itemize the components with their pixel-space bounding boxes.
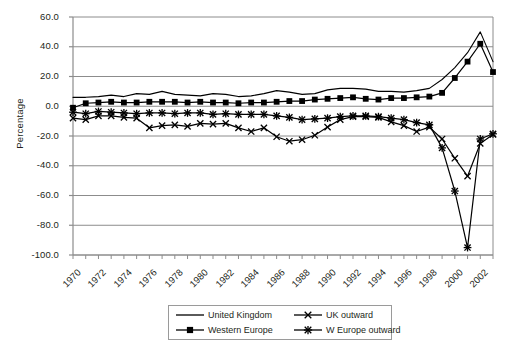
data-marker-asterisk [285, 114, 293, 122]
data-marker-x [324, 124, 330, 130]
grid-lines [73, 47, 493, 255]
data-marker-square [223, 100, 229, 106]
data-marker-asterisk [464, 244, 472, 252]
data-marker-asterisk [222, 110, 230, 118]
series-line [73, 111, 493, 247]
legend-label: UK outward [326, 310, 373, 320]
series-w-europe-outward [69, 108, 497, 252]
data-marker-square [261, 100, 267, 106]
data-marker-square [401, 95, 407, 101]
legend-marker-x [293, 309, 323, 321]
data-marker-asterisk [247, 111, 255, 119]
data-marker-square [465, 59, 471, 65]
data-marker-asterisk [158, 109, 166, 117]
data-marker-x [274, 134, 280, 140]
data-marker-square [197, 99, 203, 105]
data-marker-square [388, 95, 394, 101]
data-marker-square [299, 98, 305, 104]
data-marker-asterisk [145, 109, 153, 117]
data-marker-square [121, 100, 127, 106]
data-marker-square [248, 100, 254, 106]
data-marker-square [312, 97, 318, 103]
data-marker-square [236, 100, 242, 106]
legend-item: W Europe outward [293, 324, 399, 336]
legend-label: United Kingdom [208, 310, 272, 320]
data-marker-square [350, 94, 356, 100]
data-marker-asterisk [438, 144, 446, 152]
data-marker-asterisk [400, 116, 408, 124]
data-marker-x [452, 155, 458, 161]
series-line [73, 32, 493, 97]
data-marker-x [312, 132, 318, 138]
data-marker-asterisk [425, 121, 433, 129]
data-marker-square [96, 100, 102, 106]
data-marker-asterisk [349, 112, 357, 120]
data-marker-asterisk [171, 110, 179, 118]
data-marker-asterisk [235, 111, 243, 119]
data-marker-square [325, 96, 331, 102]
data-marker-square [477, 41, 483, 47]
legend-item: Western Europe [175, 324, 293, 336]
data-marker-x [414, 128, 420, 134]
data-marker-square [159, 99, 165, 105]
data-marker-asterisk [273, 112, 281, 120]
data-marker-square [108, 99, 114, 105]
legend-item: United Kingdom [175, 309, 293, 321]
legend-marker-none [175, 309, 205, 321]
legend-marker-asterisk [293, 324, 323, 336]
data-marker-asterisk [120, 109, 128, 117]
plot-area [0, 0, 516, 355]
data-marker-square [134, 100, 140, 106]
legend-item: UK outward [293, 309, 399, 321]
data-marker-square [274, 99, 280, 105]
data-marker-x [248, 128, 254, 134]
data-marker-square [83, 100, 89, 106]
data-marker-x [439, 136, 445, 142]
data-marker-asterisk [82, 110, 90, 118]
data-marker-square [426, 94, 432, 100]
data-marker-asterisk [489, 130, 497, 138]
data-marker-square [286, 98, 292, 104]
data-marker-square [490, 69, 496, 75]
data-marker-x [261, 125, 267, 131]
data-marker-asterisk [133, 110, 141, 118]
legend-label: Western Europe [208, 325, 273, 335]
data-marker-asterisk [260, 111, 268, 119]
series-united-kingdom [73, 32, 493, 97]
data-marker-asterisk [311, 115, 319, 123]
data-marker-asterisk [387, 114, 395, 122]
chart-root: Percentage 60.040.020.00.0-20.0-40.0-60.… [0, 0, 516, 355]
data-series-group [69, 32, 497, 252]
data-marker-asterisk [476, 135, 484, 143]
data-marker-asterisk [69, 108, 77, 116]
data-marker-square [439, 90, 445, 96]
data-marker-asterisk [304, 326, 312, 334]
data-marker-square [185, 100, 191, 106]
data-marker-square [376, 97, 382, 103]
data-marker-asterisk [336, 113, 344, 121]
data-marker-asterisk [324, 114, 332, 122]
data-marker-x [464, 173, 470, 179]
data-marker-square [363, 96, 369, 102]
data-marker-asterisk [298, 116, 306, 124]
legend-label: W Europe outward [326, 325, 401, 335]
legend-marker-square [175, 324, 205, 336]
data-marker-asterisk [107, 108, 115, 116]
data-marker-asterisk [362, 112, 370, 120]
data-marker-asterisk [451, 187, 459, 195]
data-marker-square [414, 94, 420, 100]
data-marker-asterisk [413, 119, 421, 127]
data-marker-square [452, 75, 458, 81]
data-marker-asterisk [95, 108, 103, 116]
data-marker-square [146, 99, 152, 105]
data-marker-square [337, 95, 343, 101]
series-western-europe [70, 41, 496, 111]
data-marker-asterisk [209, 111, 217, 119]
chart-legend: United KingdomUK outwardWestern EuropeW … [168, 305, 392, 340]
data-marker-square [210, 100, 216, 106]
data-marker-asterisk [375, 113, 383, 121]
data-marker-square [187, 327, 193, 333]
data-marker-asterisk [184, 109, 192, 117]
data-marker-x [235, 125, 241, 131]
data-marker-asterisk [196, 109, 204, 117]
